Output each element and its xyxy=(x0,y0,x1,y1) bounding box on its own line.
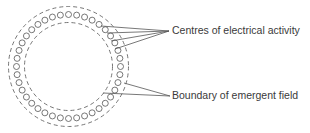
electrical-centre-dot xyxy=(74,12,80,18)
electrical-centre-dot xyxy=(14,72,20,78)
electrical-centre-dot xyxy=(29,27,35,33)
label-boundary-of-emergent-field: Boundary of emergent field xyxy=(172,89,298,101)
electrical-centre-dot xyxy=(108,94,114,100)
label-centres-of-electrical-activity: Centres of electrical activity xyxy=(172,24,300,36)
outer-boundary-circle xyxy=(9,7,129,127)
electrical-centre-dot xyxy=(57,115,63,121)
electrical-centre-dot xyxy=(42,17,48,23)
electrical-centre-dot xyxy=(117,55,123,61)
electrical-centre-dot xyxy=(117,72,123,78)
electrical-centre-dot xyxy=(115,80,121,86)
electrical-centre-dot xyxy=(29,100,35,106)
electrical-centre-dot xyxy=(89,110,95,116)
inner-boundary-circle xyxy=(25,23,113,111)
electrical-centre-dot xyxy=(49,113,55,119)
electrical-centre-dot xyxy=(57,12,63,18)
electrical-centre-dot xyxy=(102,27,108,33)
electrical-centre-dot xyxy=(16,80,22,86)
electrical-centre-dot xyxy=(14,64,20,70)
electrical-centre-dot xyxy=(23,94,29,100)
electrical-centre-dot xyxy=(42,110,48,116)
electrical-centre-dot xyxy=(19,40,25,46)
electrical-centre-dot xyxy=(14,55,20,61)
electrical-centre-dot xyxy=(35,21,41,27)
electrical-centres-ring xyxy=(14,12,124,122)
electrical-centre-dot xyxy=(82,113,88,119)
electrical-centre-dot xyxy=(89,17,95,23)
electrical-centre-dot xyxy=(82,14,88,20)
electrical-centre-dot xyxy=(19,87,25,93)
electrical-centre-dot xyxy=(118,64,124,70)
electrical-centre-dot xyxy=(102,100,108,106)
electrical-centre-dot xyxy=(49,14,55,20)
electrical-centre-dot xyxy=(23,33,29,39)
electrical-centre-dot xyxy=(66,12,72,18)
leader-lines-boundary xyxy=(103,83,170,96)
electrical-centre-dot xyxy=(74,115,80,121)
electrical-centre-dot xyxy=(96,106,102,112)
electrical-centre-dot xyxy=(16,47,22,53)
leader-lines-centres xyxy=(101,26,169,49)
electrical-centre-dot xyxy=(66,116,72,122)
electrical-centre-dot xyxy=(96,21,102,27)
electrical-centre-dot xyxy=(108,33,114,39)
electrical-centre-dot xyxy=(112,87,118,93)
field-diagram xyxy=(0,0,310,133)
electrical-centre-dot xyxy=(35,106,41,112)
